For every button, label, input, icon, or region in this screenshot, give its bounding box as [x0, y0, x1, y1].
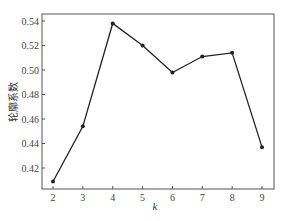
series-line [53, 23, 262, 181]
y-axis-ticks: 0.420.440.460.480.500.520.54 [22, 16, 46, 174]
x-tick-label: 7 [200, 192, 205, 203]
y-tick-label: 0.46 [22, 114, 40, 125]
silhouette-chart: 0.420.440.460.480.500.520.54 23456789 轮廓… [0, 0, 284, 221]
x-tick-label: 8 [230, 192, 235, 203]
y-tick-label: 0.52 [22, 40, 40, 51]
data-point [111, 21, 115, 25]
x-axis-label: k [153, 200, 159, 212]
data-point [170, 70, 174, 74]
x-tick-label: 4 [110, 192, 115, 203]
x-tick-label: 5 [140, 192, 145, 203]
data-point [51, 179, 55, 183]
data-point [200, 55, 204, 59]
x-tick-label: 6 [170, 192, 175, 203]
y-tick-label: 0.44 [22, 138, 40, 149]
data-point [141, 44, 145, 48]
series-markers [51, 21, 264, 183]
data-point [230, 51, 234, 55]
data-point [260, 145, 264, 149]
y-tick-label: 0.54 [22, 16, 40, 27]
plot-frame [42, 14, 274, 189]
x-tick-label: 3 [80, 192, 85, 203]
y-axis-label: 轮廓系数 [7, 82, 19, 122]
x-tick-label: 9 [260, 192, 265, 203]
x-tick-label: 2 [51, 192, 56, 203]
y-tick-label: 0.42 [22, 163, 40, 174]
y-tick-label: 0.50 [22, 65, 40, 76]
data-point [81, 124, 85, 128]
y-tick-label: 0.48 [22, 89, 40, 100]
